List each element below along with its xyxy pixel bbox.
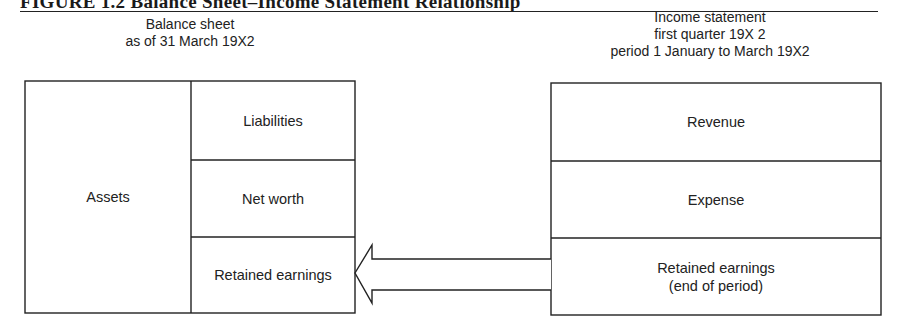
liabilities-label: Liabilities bbox=[243, 112, 303, 130]
is-retained-earnings-sublabel: (end of period) bbox=[669, 277, 763, 295]
is-retained-earnings-cell: Retained earnings (end of period) bbox=[551, 238, 881, 315]
expense-label: Expense bbox=[688, 191, 744, 209]
liabilities-cell: Liabilities bbox=[191, 81, 355, 160]
net-worth-cell: Net worth bbox=[191, 160, 355, 237]
is-retained-earnings-label: Retained earnings bbox=[657, 259, 775, 277]
net-worth-label: Net worth bbox=[242, 190, 304, 208]
left-arrow-icon bbox=[355, 245, 551, 303]
revenue-cell: Revenue bbox=[551, 83, 881, 161]
bs-retained-earnings-cell: Retained earnings bbox=[191, 237, 355, 313]
assets-label: Assets bbox=[86, 188, 130, 206]
bs-retained-earnings-label: Retained earnings bbox=[214, 266, 332, 284]
revenue-label: Revenue bbox=[687, 113, 745, 131]
assets-cell: Assets bbox=[25, 81, 191, 313]
expense-cell: Expense bbox=[551, 161, 881, 238]
